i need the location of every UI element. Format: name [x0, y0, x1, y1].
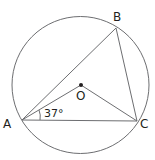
center-point-o: [79, 83, 83, 87]
circle-diagram: A B C O 37°: [0, 0, 155, 160]
segment-ab: [22, 28, 116, 120]
label-b: B: [113, 10, 121, 24]
segment-ac: [22, 120, 137, 121]
angle-label: 37°: [44, 107, 64, 120]
label-a: A: [3, 117, 12, 131]
angle-arc-oac: [39, 110, 40, 120]
label-o: O: [76, 89, 85, 103]
label-c: C: [140, 117, 148, 131]
segment-oc: [81, 85, 137, 121]
